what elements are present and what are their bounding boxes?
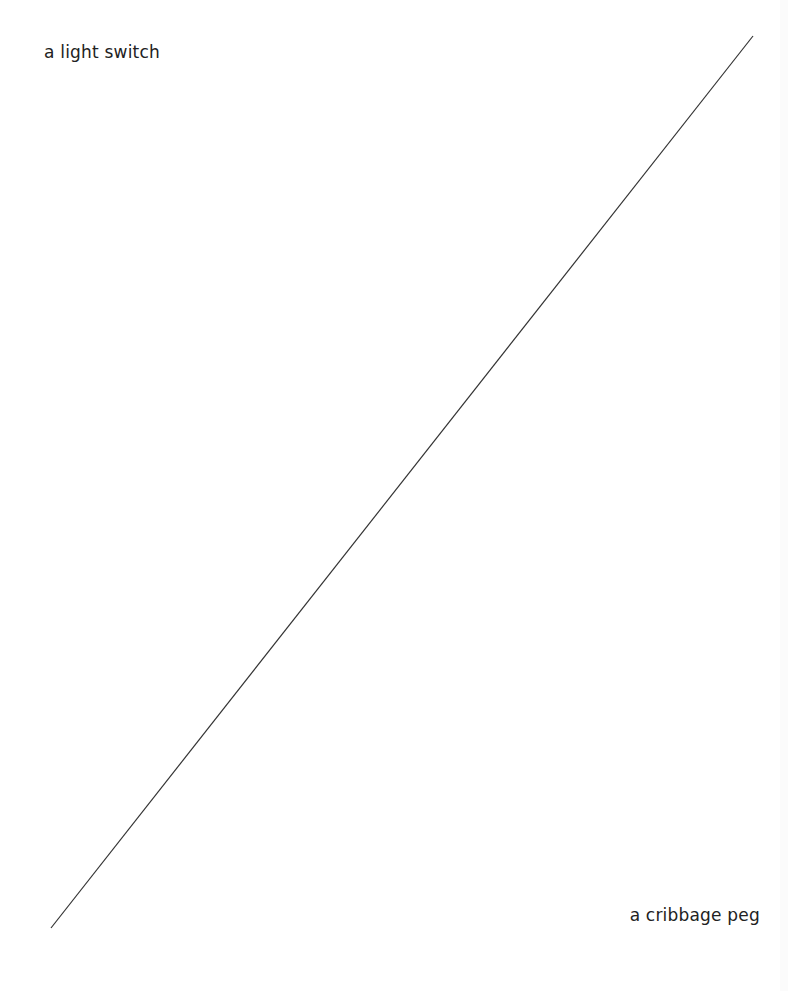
diagonal-line [0, 0, 788, 991]
bottom-right-label: a cribbage peg [630, 905, 760, 925]
top-left-label: a light switch [44, 42, 160, 62]
